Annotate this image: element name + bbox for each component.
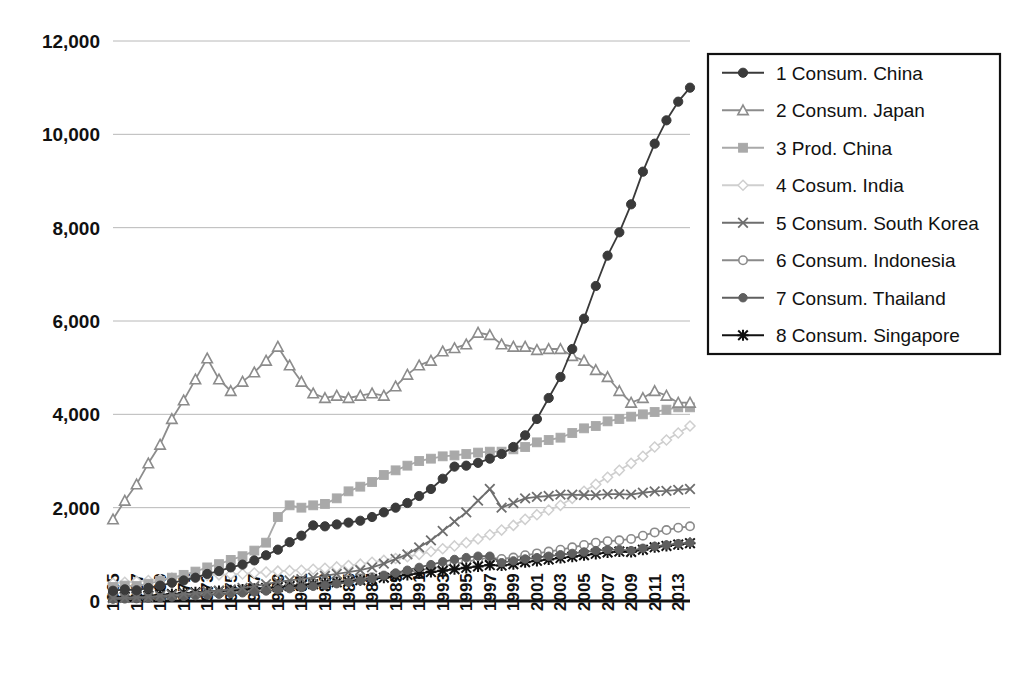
- data-point-marker: [568, 549, 576, 557]
- data-point-marker: [250, 546, 259, 555]
- data-point-marker: [403, 566, 411, 574]
- data-point-marker: [520, 514, 530, 524]
- data-point-marker: [262, 538, 271, 547]
- data-point-marker: [414, 360, 424, 370]
- data-point-marker: [144, 594, 152, 602]
- legend-box: [708, 54, 1000, 354]
- data-point-marker: [685, 421, 695, 431]
- y-axis-tick-label: 2,000: [52, 498, 100, 519]
- data-point-marker: [568, 429, 577, 438]
- data-point-marker: [238, 552, 247, 561]
- data-point-marker: [627, 200, 636, 209]
- y-axis-tick-label: 10,000: [42, 124, 100, 145]
- data-point-marker: [450, 462, 459, 471]
- data-point-marker: [544, 552, 552, 560]
- data-point-marker: [391, 466, 400, 475]
- legend-item-label: 7 Consum. Thailand: [776, 288, 946, 309]
- data-point-marker: [462, 461, 471, 470]
- data-point-marker: [250, 556, 259, 565]
- series-3: [109, 403, 695, 591]
- data-point-marker: [627, 546, 635, 554]
- data-point-marker: [686, 538, 694, 546]
- x-axis-tick-label: 2003: [551, 573, 570, 611]
- data-point-marker: [191, 573, 200, 582]
- data-point-marker: [662, 405, 671, 414]
- data-point-marker: [650, 408, 659, 417]
- x-axis-tick-label: 1995: [457, 573, 476, 611]
- x-axis-tick-label: 2013: [669, 573, 688, 611]
- data-point-marker: [473, 561, 484, 572]
- data-point-marker: [285, 538, 294, 547]
- data-point-marker: [403, 498, 412, 507]
- data-point-marker: [108, 586, 117, 595]
- data-point-marker: [662, 116, 671, 125]
- data-point-marker: [686, 522, 694, 530]
- legend-item-label: 2 Consum. Japan: [776, 100, 925, 121]
- legend-item-label: 5 Consum. South Korea: [776, 213, 979, 234]
- data-point-marker: [497, 559, 505, 567]
- data-point-marker: [368, 478, 377, 487]
- data-point-marker: [108, 514, 118, 524]
- data-point-marker: [415, 457, 424, 466]
- data-point-marker: [426, 547, 436, 557]
- data-point-marker: [284, 360, 294, 370]
- y-axis-tick-label: 6,000: [52, 311, 100, 332]
- data-point-marker: [285, 584, 293, 592]
- data-point-marker: [661, 390, 671, 400]
- grid-lines: [113, 41, 690, 508]
- series-line: [113, 88, 690, 591]
- data-point-marker: [309, 501, 318, 510]
- data-point-marker: [321, 500, 330, 509]
- data-point-marker: [486, 552, 494, 560]
- data-point-marker: [320, 522, 329, 531]
- data-point-marker: [544, 393, 553, 402]
- data-point-marker: [297, 531, 306, 540]
- data-series: [107, 83, 695, 603]
- data-point-marker: [603, 537, 611, 545]
- data-point-marker: [368, 574, 376, 582]
- data-point-marker: [673, 428, 683, 438]
- data-point-marker: [226, 563, 235, 572]
- line-chart: 02,0004,0006,0008,00010,00012,000 196519…: [0, 0, 1024, 687]
- data-point-marker: [427, 560, 435, 568]
- data-point-marker: [356, 577, 364, 585]
- data-point-marker: [167, 414, 177, 424]
- data-point-marker: [356, 516, 365, 525]
- chart-container: 02,0004,0006,0008,00010,00012,000 196519…: [0, 0, 1024, 687]
- data-point-marker: [344, 518, 353, 527]
- data-point-marker: [603, 417, 612, 426]
- data-point-marker: [427, 454, 436, 463]
- data-point-marker: [627, 412, 636, 421]
- data-point-marker: [556, 551, 564, 559]
- data-point-marker: [591, 479, 601, 489]
- data-point-marker: [638, 393, 648, 403]
- data-point-marker: [509, 498, 519, 508]
- data-point-marker: [415, 491, 424, 500]
- data-point-marker: [473, 327, 483, 337]
- data-point-marker: [321, 581, 329, 589]
- data-point-marker: [203, 569, 212, 578]
- data-point-marker: [474, 552, 482, 560]
- legend-item-label: 4 Cosum. India: [776, 175, 904, 196]
- data-point-marker: [521, 431, 530, 440]
- data-point-marker: [449, 564, 460, 575]
- data-point-marker: [484, 560, 495, 571]
- data-point-marker: [603, 472, 613, 482]
- data-point-marker: [544, 505, 554, 515]
- data-point-marker: [579, 314, 588, 323]
- data-point-marker: [437, 565, 448, 576]
- data-point-marker: [662, 526, 670, 534]
- x-axis-tick-label: 1993: [434, 573, 453, 611]
- data-point-marker: [285, 501, 294, 510]
- data-point-marker: [391, 569, 399, 577]
- data-point-marker: [474, 448, 483, 457]
- data-point-marker: [309, 521, 318, 530]
- data-point-marker: [674, 97, 683, 106]
- data-point-marker: [580, 424, 589, 433]
- data-point-marker: [156, 581, 165, 590]
- data-point-marker: [674, 539, 682, 547]
- data-point-marker: [626, 458, 636, 468]
- data-point-marker: [555, 500, 565, 510]
- x-axis-tick-label: 2011: [646, 574, 665, 611]
- data-point-marker: [521, 443, 530, 452]
